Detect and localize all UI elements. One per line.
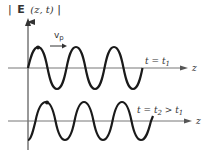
top-time-label: t = t1: [145, 56, 170, 68]
wave-diagram: | E (z, t) | vp z t = t1 z t = t2 > t1: [0, 0, 210, 156]
bottom-crest-marker: [45, 101, 49, 105]
bottom-panel: z t = t2 > t1: [8, 101, 201, 141]
bottom-time-label: t = t2 > t1: [137, 105, 183, 117]
velocity-arrow-icon: [62, 44, 67, 49]
top-crest-marker: [36, 46, 40, 50]
bottom-z-label: z: [195, 116, 201, 126]
top-panel: z t = t1: [8, 46, 197, 90]
top-z-label: z: [191, 63, 197, 73]
bottom-z-axis-arrow-icon: [184, 119, 192, 124]
vertical-axis-arrow-icon: [25, 18, 31, 26]
velocity-label: vp: [54, 30, 64, 42]
y-axis-label: | E (z, t) |: [8, 3, 61, 16]
top-z-axis-arrow-icon: [180, 66, 188, 71]
